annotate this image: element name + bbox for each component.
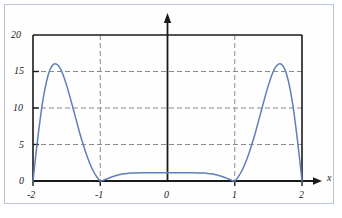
x-tick-label-0: 0 [164,189,169,200]
y-tick-label-15: 15 [14,65,24,76]
x-tick-label-neg1: -1 [95,189,103,200]
x-axis [33,177,322,184]
figure-container: 20 15 10 5 0 -2 -1 0 1 2 x [0,0,342,218]
y-tick-label-0: 0 [19,175,24,186]
x-axis-label: x [327,172,331,183]
y-tick-label-10: 10 [13,102,23,113]
x-tick-label-neg2: -2 [27,189,35,200]
y-tick-label-20: 20 [11,29,21,40]
y-axis [164,13,171,181]
x-tick-label-1: 1 [232,189,237,200]
chart-plot-area [0,0,342,218]
x-tick-label-2: 2 [299,189,304,200]
y-tick-label-5: 5 [19,139,24,150]
